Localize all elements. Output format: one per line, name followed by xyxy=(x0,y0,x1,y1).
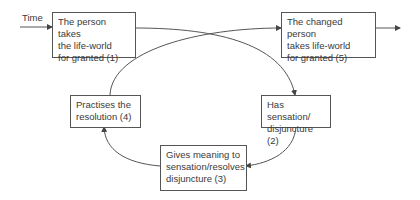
edge-3-to-4 xyxy=(104,127,160,166)
node-1-takes-life-world-for-granted: The person takes the life-world for gran… xyxy=(52,12,136,58)
edge-1-to-2 xyxy=(135,28,295,95)
node-4-practises-resolution: Practises the resolution (4) xyxy=(70,95,141,128)
node-2-has-sensation: Has sensation/ disjuncture (2) xyxy=(261,95,331,128)
node-5-changed-person: The changed person takes life-world for … xyxy=(281,12,376,58)
node-3-gives-meaning: Gives meaning to sensation/resolves disj… xyxy=(160,145,247,191)
time-label: Time xyxy=(22,12,43,23)
